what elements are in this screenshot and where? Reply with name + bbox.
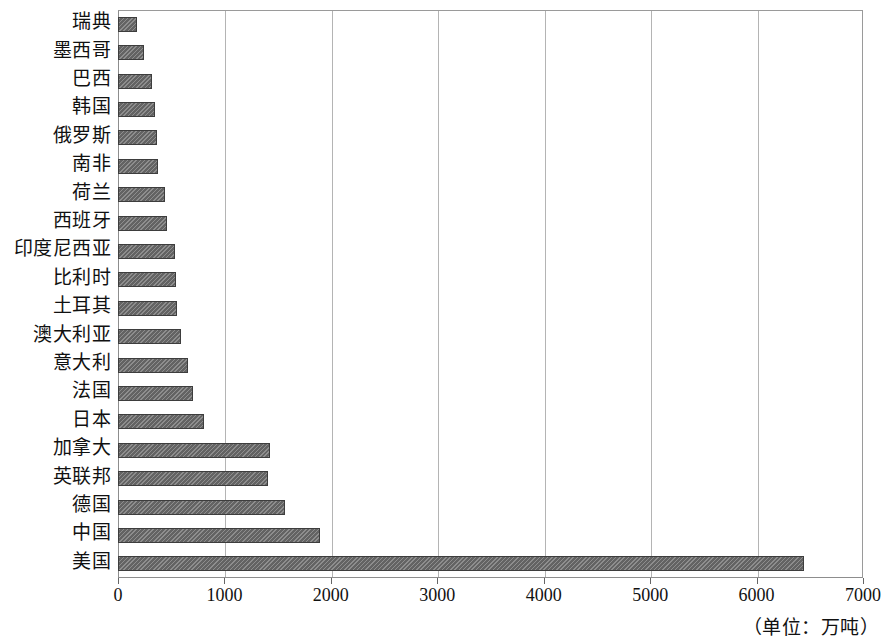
horizontal-bar-chart: 瑞典墨西哥巴西韩国俄罗斯南非荷兰西班牙印度尼西亚比利时土耳其澳大利亚意大利法国日… — [0, 0, 887, 641]
bar — [118, 187, 165, 202]
x-tick-label: 7000 — [845, 585, 881, 606]
bar — [118, 272, 176, 287]
bars-layer — [118, 10, 863, 578]
x-tick-label: 4000 — [526, 585, 562, 606]
bar — [118, 244, 175, 259]
bar — [118, 329, 181, 344]
bar — [118, 130, 157, 145]
category-label: 墨西哥 — [53, 37, 112, 65]
x-tick-label: 6000 — [739, 585, 775, 606]
bar — [118, 301, 177, 316]
category-label: 西班牙 — [53, 207, 112, 235]
category-label: 印度尼西亚 — [14, 235, 112, 263]
x-tick-label: 0 — [114, 585, 123, 606]
category-label: 意大利 — [53, 349, 112, 377]
category-label: 土耳其 — [53, 292, 112, 320]
category-label: 德国 — [72, 491, 111, 519]
bar — [118, 358, 188, 373]
bar — [118, 443, 270, 458]
bar — [118, 17, 137, 32]
category-label: 瑞典 — [72, 8, 111, 36]
x-tick-label: 1000 — [206, 585, 242, 606]
x-tick — [757, 578, 758, 584]
category-label: 荷兰 — [72, 179, 111, 207]
x-tick — [437, 578, 438, 584]
bar — [118, 386, 193, 401]
bar — [118, 500, 285, 515]
x-axis-tick-labels: 01000200030004000500060007000 — [0, 585, 887, 611]
category-label: 俄罗斯 — [53, 122, 112, 150]
x-tick — [331, 578, 332, 584]
bar — [118, 556, 804, 571]
bar — [118, 471, 268, 486]
x-tick — [650, 578, 651, 584]
category-label: 中国 — [72, 519, 111, 547]
x-tick-label: 2000 — [313, 585, 349, 606]
bar — [118, 159, 158, 174]
bar — [118, 216, 167, 231]
category-label: 加拿大 — [53, 434, 112, 462]
x-tick — [118, 578, 119, 584]
category-label: 美国 — [72, 548, 111, 576]
category-axis: 瑞典墨西哥巴西韩国俄罗斯南非荷兰西班牙印度尼西亚比利时土耳其澳大利亚意大利法国日… — [0, 8, 114, 578]
category-label: 英联邦 — [53, 463, 112, 491]
category-label: 日本 — [72, 406, 111, 434]
category-label: 比利时 — [53, 264, 112, 292]
x-tick — [224, 578, 225, 584]
x-tick — [544, 578, 545, 584]
x-tick-label: 5000 — [632, 585, 668, 606]
bar — [118, 102, 155, 117]
bar — [118, 45, 144, 60]
category-label: 法国 — [72, 377, 111, 405]
bar — [118, 74, 152, 89]
x-tick — [863, 578, 864, 584]
x-tick-label: 3000 — [419, 585, 455, 606]
category-label: 澳大利亚 — [33, 321, 111, 349]
category-label: 南非 — [72, 150, 111, 178]
category-label: 巴西 — [72, 65, 111, 93]
category-label: 韩国 — [72, 93, 111, 121]
bar — [118, 528, 320, 543]
bar — [118, 414, 204, 429]
unit-note: （单位：万吨） — [743, 612, 880, 639]
x-axis-ticks — [118, 578, 863, 584]
